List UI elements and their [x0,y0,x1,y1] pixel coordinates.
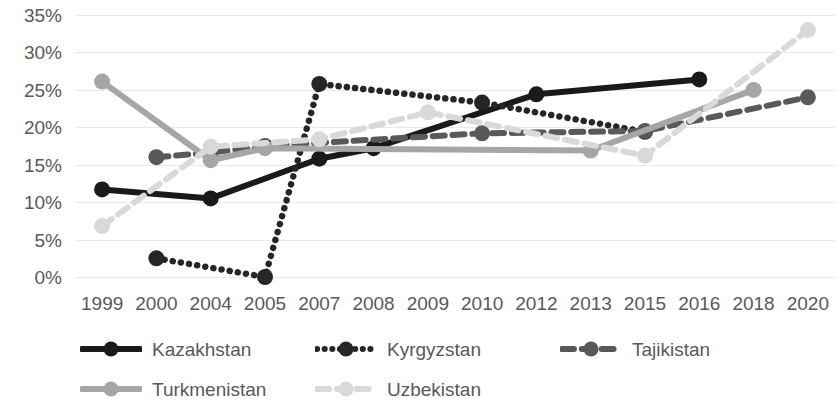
x-axis-tick: 2013 [570,294,612,313]
series-kyrgyzstan [148,76,653,285]
x-axis-tick: 2016 [678,294,720,313]
x-axis-tick: 2015 [624,294,666,313]
data-point[interactable] [94,74,110,90]
data-point[interactable] [691,71,707,87]
data-point[interactable] [203,190,219,206]
legend-label: Kazakhstan [152,340,251,359]
legend-label: Tajikistan [632,340,710,359]
x-axis-tick: 1999 [81,294,123,313]
x-axis-tick: 2005 [244,294,286,313]
data-point[interactable] [311,151,327,167]
legend-swatch-icon [315,378,377,400]
data-point[interactable] [257,269,273,285]
legend-swatch-icon [560,338,622,360]
legend-label: Turkmenistan [152,380,266,399]
data-point[interactable] [311,131,327,147]
legend-item-tajikistan[interactable]: Tajikistan [560,336,710,362]
legend-label: Uzbekistan [387,380,481,399]
chart-legend: KazakhstanKyrgyzstanTajikistanTurkmenist… [0,336,838,413]
x-axis-labels: 1999200020042005200720082009201020122013… [75,294,835,324]
legend-label: Kyrgyzstan [387,340,481,359]
legend-swatch-icon [80,378,142,400]
legend-item-kyrgyzstan[interactable]: Kyrgyzstan [315,336,481,362]
data-point[interactable] [746,82,762,98]
x-axis-tick: 2018 [732,294,774,313]
x-axis-tick: 2004 [190,294,232,313]
data-point[interactable] [637,148,653,164]
legend-item-turkmenistan[interactable]: Turkmenistan [80,376,266,402]
data-point[interactable] [474,95,490,111]
data-point[interactable] [474,125,490,141]
line-chart: 0%5%10%15%20%25%30%35% 19992000200420052… [0,0,838,413]
series-uzbekistan [94,22,816,234]
data-point[interactable] [800,22,816,38]
data-point[interactable] [420,104,436,120]
x-axis-tick: 2012 [515,294,557,313]
data-point[interactable] [148,149,164,165]
x-axis-tick: 2009 [407,294,449,313]
x-axis-tick: 2000 [135,294,177,313]
x-axis-tick: 2010 [461,294,503,313]
data-point[interactable] [203,139,219,155]
x-axis-tick: 2020 [787,294,829,313]
data-point[interactable] [528,86,544,102]
data-point[interactable] [311,76,327,92]
legend-swatch-icon [315,338,377,360]
legend-item-uzbekistan[interactable]: Uzbekistan [315,376,481,402]
series-line [156,84,645,277]
data-point[interactable] [800,89,816,105]
legend-item-kazakhstan[interactable]: Kazakhstan [80,336,251,362]
data-point[interactable] [94,218,110,234]
data-point[interactable] [148,250,164,266]
data-point[interactable] [94,181,110,197]
legend-swatch-icon [80,338,142,360]
x-axis-tick: 2007 [298,294,340,313]
x-axis-tick: 2008 [352,294,394,313]
